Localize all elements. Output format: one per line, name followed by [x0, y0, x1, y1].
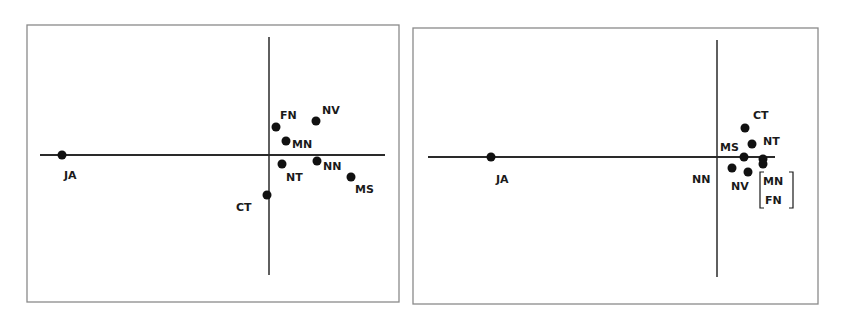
- left-label-ms: MS: [355, 183, 374, 196]
- left-point-ja: [58, 151, 67, 160]
- right-label-mn: MN: [763, 175, 783, 188]
- right-label-nt: NT: [763, 135, 780, 148]
- left-label-nv: NV: [322, 104, 340, 117]
- right-point-ct: [741, 124, 750, 133]
- right-panel-frame: [413, 28, 818, 304]
- figure: JA FN NV MN NT NN MS CT JA CT NT MS NN N…: [0, 0, 841, 318]
- right-label-ct: CT: [753, 109, 769, 122]
- right-label-fn: FN: [765, 194, 782, 207]
- left-point-ms: [347, 173, 356, 182]
- left-panel-frame: [27, 25, 399, 302]
- right-point-ja: [487, 153, 496, 162]
- left-point-ct: [263, 191, 272, 200]
- right-point-ms: [740, 153, 749, 162]
- left-label-mn: MN: [292, 138, 312, 151]
- right-point-nv: [744, 168, 753, 177]
- left-point-nn: [313, 157, 322, 166]
- right-point-nn: [728, 164, 737, 173]
- right-point-fn: [759, 160, 768, 169]
- left-label-nn: NN: [323, 160, 341, 173]
- left-point-nt: [278, 160, 287, 169]
- left-label-ct: CT: [236, 201, 252, 214]
- left-point-fn: [272, 123, 281, 132]
- right-label-nn: NN: [692, 173, 710, 186]
- left-label-ja: JA: [63, 169, 77, 182]
- right-label-ja: JA: [495, 173, 509, 186]
- left-point-nv: [312, 117, 321, 126]
- left-point-mn: [282, 137, 291, 146]
- right-label-ms: MS: [720, 141, 739, 154]
- left-panel: JA FN NV MN NT NN MS CT: [27, 25, 399, 302]
- right-panel: JA CT NT MS NN NV MN FN: [413, 28, 818, 304]
- left-label-nt: NT: [286, 171, 303, 184]
- right-label-nv: NV: [731, 180, 749, 193]
- left-label-fn: FN: [280, 109, 297, 122]
- right-point-nt: [748, 140, 757, 149]
